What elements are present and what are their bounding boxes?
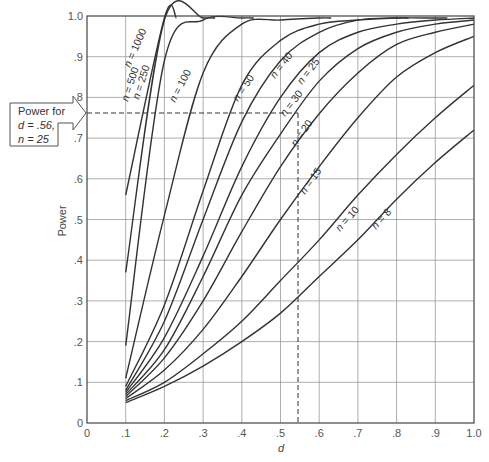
curve-label: n = 100 [166,67,193,104]
y-tick-label: .6 [74,173,83,185]
y-tick-label: .2 [74,336,83,348]
curve-label: n = 1000 [121,26,149,69]
y-tick-label: 1.0 [68,10,83,22]
x-tick-label: 1.0 [466,427,481,439]
y-tick-label: .4 [74,254,83,266]
curve-label: n = 30 [277,87,305,118]
y-axis-label: Power [56,205,68,237]
curve-label: n = 20 [288,117,315,148]
x-tick-label: .7 [353,427,362,439]
curve-label: n = 15 [297,165,324,196]
x-tick-label: .1 [121,427,130,439]
x-tick-label: .9 [431,427,440,439]
x-tick-label: .2 [160,427,169,439]
x-tick-label: .6 [315,427,324,439]
callout-line-2: d = .56, [18,119,55,131]
callout-line-3: n = 25 [18,133,50,145]
y-tick-label: .7 [74,132,83,144]
y-tick-label: .3 [74,295,83,307]
curve-label: n = 25 [294,55,322,86]
power-chart: 0.1.2.3.4.5.6.7.8.91.00.1.2.3.4.5.6.7.8.… [0,0,489,462]
power-curves [126,1,474,403]
y-tick-label: .1 [74,376,83,388]
y-tick-label: 0 [77,417,83,429]
x-tick-label: .4 [237,427,246,439]
callout-line-1: Power for [18,105,65,117]
x-tick-label: .5 [276,427,285,439]
x-tick-label: .3 [199,427,208,439]
x-tick-label: .8 [392,427,401,439]
curve-label: n = 8 [369,206,394,232]
y-tick-label: .5 [74,214,83,226]
curve-label: n = 50 [230,72,257,103]
x-axis-label: d [278,442,285,454]
x-tick-label: 0 [84,427,90,439]
y-tick-label: .9 [74,51,83,63]
curve-label: n = 40 [267,49,295,80]
